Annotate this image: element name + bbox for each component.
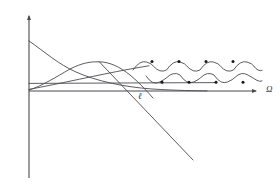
marker-dot <box>215 81 218 84</box>
series-flat-line <box>29 83 215 84</box>
marker-dot <box>232 60 235 63</box>
series-hump-curve <box>29 62 153 98</box>
series-upper-oscillation <box>133 62 262 71</box>
marker-dot <box>151 60 154 63</box>
x-axis-label: Ω <box>266 85 273 94</box>
marker-dot <box>188 81 191 84</box>
figure-container: Ω ℓ <box>0 0 280 186</box>
data-series-group <box>29 41 262 160</box>
marker-dot <box>178 60 181 63</box>
marker-dot <box>242 81 245 84</box>
marker-dot <box>205 60 208 63</box>
marker-dot <box>161 81 164 84</box>
crossing-point-label: ℓ <box>138 92 142 101</box>
axes-group <box>29 16 256 178</box>
series-rising-line <box>29 66 149 90</box>
